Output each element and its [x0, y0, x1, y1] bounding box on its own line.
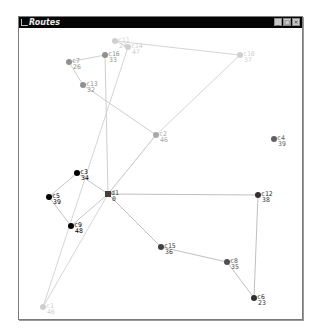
route-canvas: d10c146c246c334c439c539c623c726c835c948c…	[19, 28, 302, 319]
node-c1[interactable]: c146	[40, 302, 55, 316]
node-demand: 46	[47, 308, 55, 316]
node-c3[interactable]: c334	[74, 168, 89, 182]
node-c8[interactable]: c835	[224, 257, 239, 271]
route-edge	[108, 194, 161, 247]
node-demand: 0	[112, 195, 116, 203]
node-demand: 39	[53, 198, 61, 206]
node-d1[interactable]: d10	[105, 189, 119, 203]
route-edge	[156, 55, 240, 135]
route-edge	[108, 194, 258, 195]
node-c7[interactable]: c726	[66, 57, 81, 71]
node-c10[interactable]: c1037	[237, 50, 255, 64]
node-demand: 35	[231, 263, 239, 271]
node-c2[interactable]: c246	[153, 130, 168, 144]
node-c4[interactable]: c439	[271, 134, 286, 148]
node-demand: 32	[87, 86, 95, 94]
minimize-button[interactable]: _	[274, 18, 282, 26]
node-demand: 34	[81, 174, 89, 182]
node-demand: 26	[73, 63, 81, 71]
node-c6[interactable]: c623	[251, 293, 266, 307]
node-c16[interactable]: c1633	[102, 50, 120, 64]
node-c9[interactable]: c948	[68, 221, 83, 235]
route-edge	[108, 135, 156, 194]
route-edge	[43, 194, 108, 307]
node-demand: 23	[258, 299, 266, 307]
node-demand: 48	[75, 227, 83, 235]
node-demand: 39	[278, 140, 286, 148]
node-demand: 33	[109, 56, 117, 64]
node-demand: 38	[262, 196, 270, 204]
node-demand: 37	[244, 56, 252, 64]
close-button[interactable]: ×	[292, 18, 300, 26]
node-demand: 46	[160, 136, 168, 144]
window-icon	[21, 19, 28, 26]
node-demand: 36	[165, 248, 173, 256]
node-c5[interactable]: c539	[46, 192, 61, 206]
route-edge	[254, 195, 258, 298]
title-bar[interactable]: Routes _ □ ×	[19, 17, 302, 28]
route-edge	[105, 55, 108, 194]
node-c15[interactable]: c1536	[158, 242, 176, 256]
node-demand: 47	[132, 48, 140, 56]
maximize-button[interactable]: □	[283, 18, 291, 26]
routes-window: Routes _ □ × d10c146c246c334c439c539c623…	[18, 16, 303, 320]
node-c14[interactable]: c1447	[125, 42, 143, 56]
route-map: d10c146c246c334c439c539c623c726c835c948c…	[19, 28, 304, 321]
node-c13[interactable]: c1332	[80, 80, 98, 94]
window-title: Routes	[29, 17, 60, 28]
